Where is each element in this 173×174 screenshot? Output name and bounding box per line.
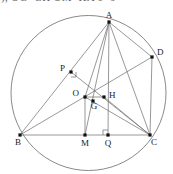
point-A: [107, 20, 110, 23]
point-label-O: O: [73, 88, 80, 98]
right-angle-mark-layer: [71, 72, 108, 135]
point-Q: [106, 133, 109, 136]
point-M: [83, 133, 86, 136]
point-D: [150, 55, 153, 58]
point-P: [69, 70, 72, 73]
segment-AM: [85, 22, 109, 135]
point-label-C: C: [151, 137, 157, 147]
point-label-D: D: [157, 47, 164, 57]
point-label-A: A: [106, 10, 113, 20]
geometry-figure: ADPOHGBMQC: [0, 9, 173, 174]
segment-DC: [150, 57, 152, 135]
point-label-layer: ADPOHGBMQC: [15, 10, 164, 148]
segment-AQ: [108, 22, 109, 135]
segment-AO: [85, 22, 109, 97]
point-H: [102, 95, 105, 98]
point-label-M: M: [81, 138, 89, 148]
formula-text: ), OG=GH OM=HA 6+6: [1, 0, 115, 3]
point-label-H: H: [109, 90, 116, 100]
point-label-P: P: [60, 63, 65, 73]
point-O: [83, 95, 86, 98]
segment-layer: [20, 22, 152, 135]
diagram-page: ), OG=GH OM=HA 6+6 ADPOHGBMQC: [0, 0, 173, 174]
point-label-G: G: [91, 101, 98, 111]
point-label-Q: Q: [105, 138, 112, 148]
point-label-B: B: [15, 137, 21, 147]
geometry-svg: ADPOHGBMQC: [0, 9, 173, 174]
point-layer: [18, 20, 153, 136]
